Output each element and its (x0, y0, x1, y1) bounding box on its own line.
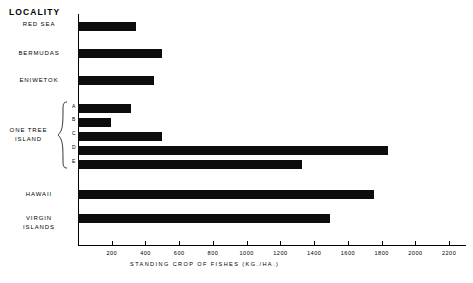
bar (78, 49, 162, 58)
x-axis-tick (179, 241, 180, 245)
category-label-hawaii: HAWAII (5, 190, 73, 199)
y-axis-header: LOCALITY (9, 7, 60, 17)
x-axis-tick-label: 400 (140, 250, 151, 256)
x-axis-tick-label: 200 (106, 250, 117, 256)
category-label-one-tree-island-line1: ONE TREE (0, 126, 57, 135)
x-axis-tick-label: 1600 (341, 250, 355, 256)
bar (78, 104, 131, 113)
x-axis-tick (415, 241, 416, 245)
bar (78, 132, 162, 141)
x-axis-tick-label: 1400 (307, 250, 321, 256)
category-label-bermudas: BERMUDAS (5, 49, 73, 58)
x-axis-tick-label: 800 (208, 250, 219, 256)
x-axis-tick (280, 241, 281, 245)
bar (78, 146, 388, 155)
x-axis-line (78, 245, 466, 246)
subcategory-label-a: A (72, 103, 76, 109)
x-axis-title: STANDING CROP OF FISHES (KG./HA.) (78, 261, 378, 267)
x-axis-tick-label: 1800 (375, 250, 389, 256)
bar (78, 22, 136, 31)
subcategory-label-b: B (72, 116, 76, 122)
x-axis-tick (213, 241, 214, 245)
category-label-one-tree-island-line2: ISLAND (0, 135, 57, 144)
bar (78, 76, 154, 85)
group-brace-icon (57, 101, 68, 169)
x-axis-tick-label: 600 (174, 250, 185, 256)
bar (78, 160, 302, 169)
category-label-virgin-islands-line2: ISLANDS (5, 223, 73, 232)
subcategory-label-e: E (72, 158, 76, 164)
plot-area: 2004006008001000120014001600180020002200 (78, 14, 466, 246)
bar (78, 214, 330, 223)
subcategory-label-c: C (72, 130, 76, 136)
x-axis-tick (382, 241, 383, 245)
x-axis-tick (348, 241, 349, 245)
x-axis-tick-label: 1000 (240, 250, 254, 256)
x-axis-tick (314, 241, 315, 245)
bar (78, 190, 374, 199)
x-axis-tick (449, 241, 450, 245)
category-label-red-sea: RED SEA (9, 20, 69, 29)
subcategory-label-d: D (72, 144, 76, 150)
x-axis-tick-label: 2000 (408, 250, 422, 256)
x-axis-tick (145, 241, 146, 245)
x-axis-tick (247, 241, 248, 245)
category-label-eniwetok: ENIWETOK (5, 76, 73, 85)
x-axis-tick-label: 2200 (442, 250, 456, 256)
category-label-virgin-islands-line1: VIRGIN (5, 214, 73, 223)
x-axis-tick (112, 241, 113, 245)
bar-chart: LOCALITY RED SEA BERMUDAS ENIWETOK ONE T… (0, 0, 473, 283)
bar (78, 118, 111, 127)
x-axis-tick-label: 1200 (273, 250, 287, 256)
